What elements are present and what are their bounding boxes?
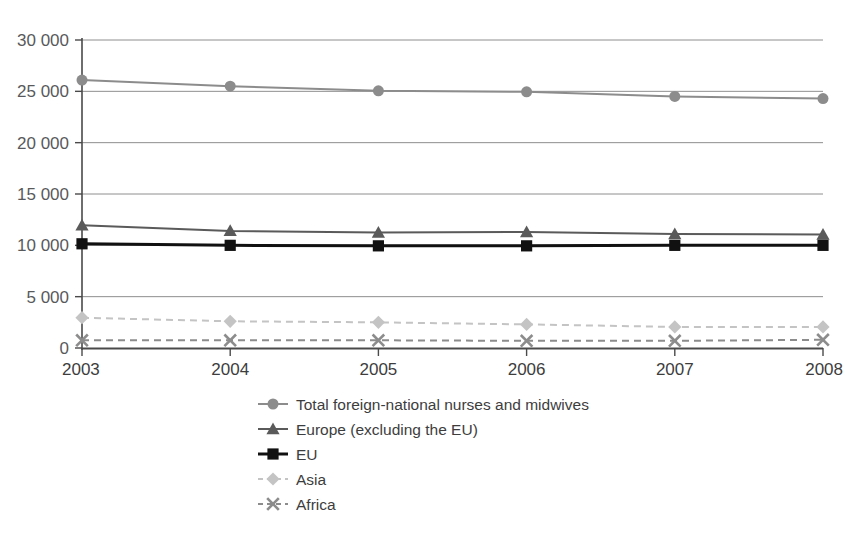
x-tick-label: 2003 — [62, 360, 100, 379]
square-marker-icon — [225, 240, 236, 251]
diamond-marker-icon — [520, 318, 533, 331]
data-series — [75, 219, 829, 240]
circle-marker-icon — [373, 85, 384, 96]
legend-item-label: EU — [296, 446, 318, 463]
legend-item[interactable]: Asia — [258, 471, 327, 488]
circle-marker-icon — [521, 86, 532, 97]
y-tick-labels: 05 00010 00015 00020 00025 00030 000 — [17, 31, 69, 358]
y-tick-label: 30 000 — [17, 31, 69, 50]
square-marker-icon — [669, 240, 680, 251]
data-series — [76, 238, 828, 251]
diamond-marker-icon — [668, 320, 681, 333]
x-tick-label: 2004 — [211, 360, 249, 379]
series-line — [82, 80, 823, 98]
y-tick-label: 5 000 — [26, 288, 69, 307]
data-series — [76, 334, 829, 347]
gridlines — [82, 40, 823, 297]
legend-item-label: Total foreign-national nurses and midwiv… — [296, 396, 589, 413]
x-tick-label: 2007 — [656, 360, 694, 379]
series-line — [82, 340, 823, 341]
square-marker-icon — [76, 238, 87, 249]
series-line — [82, 225, 823, 234]
series-line — [82, 318, 823, 327]
circle-marker-icon — [669, 91, 680, 102]
x-tick-labels: 200320042005200620072008 — [62, 360, 843, 379]
line-chart-figure: 05 00010 00015 00020 00025 00030 000 200… — [0, 0, 868, 541]
legend-item[interactable]: EU — [258, 446, 318, 463]
x-tick-label: 2005 — [359, 360, 397, 379]
circle-marker-icon — [818, 93, 829, 104]
chart-canvas: 05 00010 00015 00020 00025 00030 000 200… — [0, 0, 868, 541]
y-tick-marks — [75, 40, 82, 348]
diamond-marker-icon — [75, 311, 88, 324]
legend-item-label: Europe (excluding the EU) — [296, 421, 478, 438]
y-tick-label: 25 000 — [17, 82, 69, 101]
legend-item[interactable]: Europe (excluding the EU) — [258, 421, 478, 438]
x-tick-label: 2008 — [805, 360, 843, 379]
chart-legend: Total foreign-national nurses and midwiv… — [258, 396, 589, 513]
circle-marker-icon — [77, 75, 88, 86]
diamond-marker-icon — [816, 320, 829, 333]
legend-item[interactable]: Total foreign-national nurses and midwiv… — [258, 396, 589, 413]
legend-item[interactable]: Africa — [258, 496, 336, 513]
series-line — [82, 244, 823, 246]
legend-item-label: Asia — [296, 471, 327, 488]
circle-marker-icon — [268, 399, 279, 410]
x-tick-label: 2006 — [508, 360, 546, 379]
y-tick-label: 0 — [60, 339, 69, 358]
diamond-marker-icon — [372, 316, 385, 329]
y-tick-label: 20 000 — [17, 134, 69, 153]
series-layer — [75, 75, 829, 347]
circle-marker-icon — [225, 81, 236, 92]
square-marker-icon — [373, 240, 384, 251]
legend-item-label: Africa — [296, 496, 336, 513]
diamond-marker-icon — [266, 472, 279, 485]
data-series — [75, 311, 829, 333]
square-marker-icon — [521, 240, 532, 251]
data-series — [77, 75, 829, 104]
square-marker-icon — [267, 448, 278, 459]
y-tick-label: 10 000 — [17, 236, 69, 255]
y-tick-label: 15 000 — [17, 185, 69, 204]
diamond-marker-icon — [224, 315, 237, 328]
square-marker-icon — [817, 240, 828, 251]
